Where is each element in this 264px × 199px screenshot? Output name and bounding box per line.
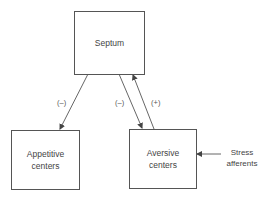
appetitive-centers-node: Appetitive centers	[11, 130, 80, 190]
stress-afferents-line2: afferents	[227, 159, 258, 168]
stress-afferents-line1: Stress	[231, 148, 254, 157]
appetitive-label-line2: centers	[32, 161, 60, 171]
edge-sign-septum-aversive: (–)	[115, 98, 124, 107]
edge-sign-aversive-septum: (+)	[151, 98, 160, 107]
septum-node: Septum	[74, 11, 145, 75]
stress-afferents-label: Stress afferents	[222, 147, 262, 169]
aversive-label-line2: centers	[149, 160, 177, 170]
aversive-label-line1: Aversive	[147, 148, 179, 158]
appetitive-label-line1: Appetitive	[27, 149, 64, 159]
aversive-label: Aversive centers	[147, 147, 179, 171]
appetitive-label: Appetitive centers	[27, 148, 64, 172]
aversive-centers-node: Aversive centers	[129, 129, 197, 189]
edge-sign-septum-appetitive: (–)	[57, 98, 66, 107]
septum-label: Septum	[95, 37, 124, 49]
